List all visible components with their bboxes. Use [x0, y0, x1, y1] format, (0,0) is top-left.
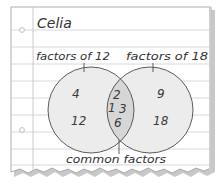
- left-only-value: 12: [71, 114, 86, 128]
- common-value: 2: [113, 88, 121, 102]
- common-value: 1: [108, 101, 116, 115]
- common-value: 3: [119, 102, 127, 116]
- notebook-page: Celia factors of 12 factors of 18 4 12 9…: [0, 0, 216, 182]
- common-value: 6: [114, 116, 122, 130]
- right-only-value: 18: [153, 114, 169, 128]
- intersection-label: common factors: [66, 153, 166, 166]
- student-name: Celia: [37, 15, 72, 31]
- punch-hole-bottom: [20, 128, 25, 133]
- left-only-value: 4: [72, 87, 80, 101]
- right-set-label: factors of 18: [126, 50, 208, 63]
- punch-hole-top: [20, 28, 25, 33]
- left-set-label: factors of 12: [36, 50, 110, 63]
- right-only-value: 9: [157, 87, 165, 101]
- paper-right-shadow: [209, 7, 212, 170]
